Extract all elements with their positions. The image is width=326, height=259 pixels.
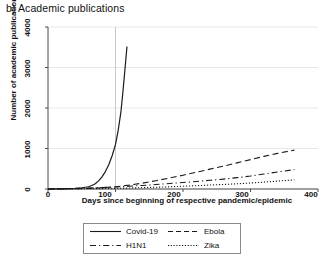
legend-label-h1n1: H1N1 [126, 241, 146, 250]
series-line-h1n1 [48, 170, 294, 189]
legend-item-ebola[interactable]: Ebola [162, 227, 240, 236]
x-tick-300: 300 [227, 190, 257, 199]
y-tick-1000: 1000 [23, 137, 32, 163]
legend-label-ebola: Ebola [204, 227, 224, 236]
legend-swatch-dotted [167, 242, 200, 249]
legend: Covid-19 Ebola H1N1 Zika [83, 223, 241, 254]
legend-swatch-dash-dot [89, 242, 122, 249]
x-tick-200: 200 [159, 190, 189, 199]
x-tick-400: 400 [296, 190, 326, 199]
y-axis-label: Number of academic publications [9, 0, 18, 132]
y-tick-4000: 4000 [23, 15, 32, 41]
legend-label-covid-19: Covid-19 [126, 227, 158, 236]
legend-label-zika: Zika [204, 241, 219, 250]
page-title: b) Academic publications [6, 2, 125, 14]
tick-marks [45, 27, 318, 192]
plot-area [0, 0, 326, 259]
legend-swatch-solid [89, 228, 122, 235]
y-tick-3000: 3000 [23, 56, 32, 82]
legend-item-h1n1[interactable]: H1N1 [84, 241, 162, 250]
x-tick-0: 0 [33, 190, 63, 199]
x-tick-100: 100 [90, 190, 120, 199]
y-tick-0: 0 [23, 177, 32, 203]
legend-item-zika[interactable]: Zika [162, 241, 240, 250]
legend-swatch-dashed [167, 228, 200, 235]
y-tick-2000: 2000 [23, 96, 32, 122]
academic-publications-chart-figure: b) Academic publications Number of acade… [0, 0, 326, 259]
gridlines [48, 27, 318, 189]
legend-item-covid-19[interactable]: Covid-19 [84, 227, 162, 236]
